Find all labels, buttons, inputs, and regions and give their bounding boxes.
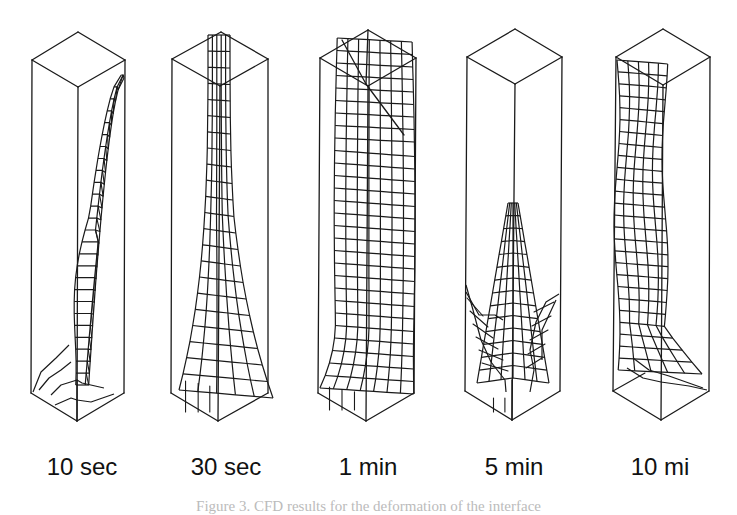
figure-caption: Figure 3. CFD results for the deformatio… <box>0 498 737 515</box>
panel-5-min <box>465 29 562 420</box>
panel-label-10-sec: 10 sec <box>47 453 118 481</box>
panel-30-sec <box>171 32 273 421</box>
panel-label-1-min: 1 min <box>339 453 398 481</box>
panel-label-5-min: 5 min <box>485 453 544 481</box>
panel-label-10-min: 10 mi <box>631 453 690 481</box>
panel-1-min <box>318 30 416 421</box>
panel-label-30-sec: 30 sec <box>191 453 262 481</box>
panel-10-min <box>613 29 710 420</box>
panel-10-sec <box>31 32 125 421</box>
